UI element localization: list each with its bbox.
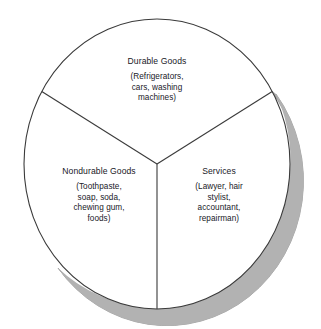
detail-line: soap, soda, — [40, 193, 158, 204]
detail-line: chewing gum, — [40, 203, 158, 214]
detail-line: accountant, — [166, 203, 272, 214]
pie-slice-detail-durable-goods: (Refrigerators, cars, washing machines) — [96, 72, 218, 104]
detail-line: foods) — [40, 214, 158, 225]
pie-slice-title-durable-goods: Durable Goods — [96, 56, 218, 67]
detail-line: (Refrigerators, — [96, 72, 218, 83]
detail-line: (Lawyer, hair — [166, 182, 272, 193]
pie-slice-title-nondurable-goods: Nondurable Goods — [40, 166, 158, 177]
detail-line: (Toothpaste, — [40, 182, 158, 193]
detail-line: machines) — [96, 93, 218, 104]
pie-slice-detail-nondurable-goods: (Toothpaste, soap, soda, chewing gum, fo… — [40, 182, 158, 224]
detail-line: cars, washing — [96, 83, 218, 94]
pie-chart-figure: Durable Goods (Refrigerators, cars, wash… — [0, 0, 321, 329]
pie-chart-graphic — [0, 0, 321, 329]
pie-slice-detail-services: (Lawyer, hair stylist, accountant, repai… — [166, 182, 272, 224]
pie-slice-title-services: Services — [166, 166, 272, 177]
detail-line: stylist, — [166, 193, 272, 204]
pie-slice-label-nondurable-goods: Nondurable Goods (Toothpaste, soap, soda… — [40, 166, 158, 224]
detail-line: repairman) — [166, 214, 272, 225]
pie-slice-label-durable-goods: Durable Goods (Refrigerators, cars, wash… — [96, 56, 218, 104]
pie-slice-label-services: Services (Lawyer, hair stylist, accounta… — [166, 166, 272, 224]
